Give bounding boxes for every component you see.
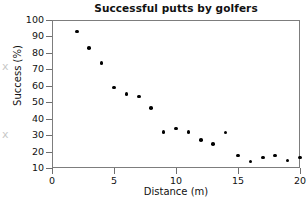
data-point xyxy=(75,30,79,34)
data-point xyxy=(174,127,178,131)
x-axis-label: Distance (m) xyxy=(52,186,300,197)
data-point xyxy=(137,95,141,99)
x-axis-tick xyxy=(300,168,301,174)
y-axis-tick xyxy=(46,135,52,136)
x-axis-tick-label: 15 xyxy=(218,176,258,186)
y-axis-tick-label: 10 xyxy=(32,163,44,173)
y-axis-tick xyxy=(46,53,52,54)
x-axis-tick-label: 20 xyxy=(280,176,308,186)
y-axis-tick xyxy=(46,102,52,103)
scan-artifact-mark: x xyxy=(2,128,9,141)
data-point xyxy=(112,86,116,90)
y-axis-label: Success (%) xyxy=(12,26,23,126)
y-axis-tick xyxy=(46,152,52,153)
x-axis-tick-label: 5 xyxy=(94,176,134,186)
data-point xyxy=(261,156,265,160)
y-axis-tick xyxy=(46,69,52,70)
data-point xyxy=(100,61,104,65)
data-point xyxy=(87,46,91,50)
y-axis-tick-label: 40 xyxy=(32,114,44,124)
y-axis-tick-label: 60 xyxy=(32,81,44,91)
x-axis-tick xyxy=(176,168,177,174)
chart-figure: x x Successful putts by golfers 10203040… xyxy=(0,0,308,198)
x-axis-tick-label: 0 xyxy=(32,176,72,186)
y-axis-tick xyxy=(46,119,52,120)
x-axis-tick xyxy=(114,168,115,174)
y-axis-tick-label: 30 xyxy=(32,130,44,140)
data-point xyxy=(211,142,215,146)
y-axis-tick-label: 20 xyxy=(32,147,44,157)
y-axis-tick-label: 100 xyxy=(26,15,44,25)
y-axis-tick-label: 50 xyxy=(32,97,44,107)
chart-title: Successful putts by golfers xyxy=(52,2,300,14)
data-point xyxy=(162,130,166,134)
x-axis-tick xyxy=(52,168,53,174)
y-axis-tick-label: 70 xyxy=(32,64,44,74)
data-point xyxy=(199,138,203,142)
data-point xyxy=(298,156,302,160)
data-point xyxy=(149,106,153,110)
x-axis-tick-label: 10 xyxy=(156,176,196,186)
x-axis-tick xyxy=(238,168,239,174)
plot-area xyxy=(52,20,300,168)
data-point xyxy=(187,130,191,134)
y-axis-tick-label: 80 xyxy=(32,48,44,58)
data-point xyxy=(125,92,129,96)
y-axis-tick xyxy=(46,86,52,87)
y-axis-tick xyxy=(46,36,52,37)
scan-artifact-mark: x xyxy=(2,60,9,73)
y-axis-tick xyxy=(46,20,52,21)
y-axis-tick-label: 90 xyxy=(32,31,44,41)
